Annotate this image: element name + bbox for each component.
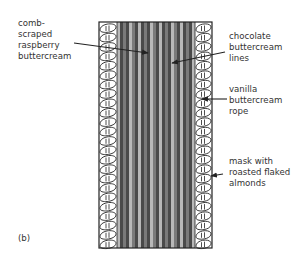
cake-decoration-diagram: comb- scraped raspberry buttercream choc…	[0, 0, 305, 257]
almonds-arrow	[211, 174, 223, 176]
panel-label: (b)	[18, 233, 30, 243]
vanilla-rope-left	[99, 22, 117, 249]
raspberry-label: comb- scraped raspberry buttercream	[18, 18, 71, 61]
vanilla-label: vanilla buttercream rope	[229, 84, 285, 116]
buttercream-stripes	[117, 22, 195, 248]
chocolate-label: chocolate buttercream lines	[229, 31, 285, 63]
almonds-label: mask with roasted flaked almonds	[229, 156, 293, 188]
